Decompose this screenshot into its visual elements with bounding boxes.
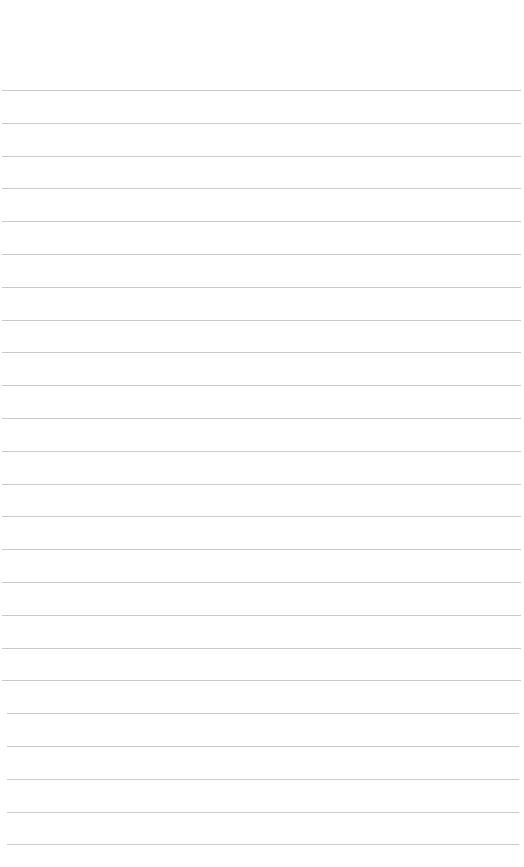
ruled-line xyxy=(2,254,521,255)
ruled-line xyxy=(2,221,521,222)
ruled-line xyxy=(2,615,521,616)
lined-paper-page xyxy=(0,0,524,867)
ruled-line xyxy=(2,352,521,353)
ruled-line xyxy=(2,123,521,124)
ruled-line xyxy=(2,287,521,288)
ruled-line xyxy=(2,680,521,681)
ruled-line xyxy=(2,188,521,189)
ruled-line xyxy=(7,746,519,747)
ruled-line xyxy=(2,648,521,649)
ruled-line xyxy=(2,582,521,583)
ruled-line xyxy=(2,320,521,321)
ruled-line xyxy=(7,844,519,845)
ruled-line xyxy=(2,549,521,550)
ruled-line xyxy=(2,156,521,157)
ruled-line xyxy=(2,451,521,452)
ruled-line xyxy=(2,385,521,386)
ruled-line xyxy=(7,812,519,813)
ruled-line xyxy=(2,90,521,91)
ruled-line xyxy=(7,713,519,714)
ruled-line xyxy=(2,484,521,485)
ruled-line xyxy=(2,516,521,517)
ruled-line xyxy=(2,418,521,419)
ruled-line xyxy=(7,779,519,780)
